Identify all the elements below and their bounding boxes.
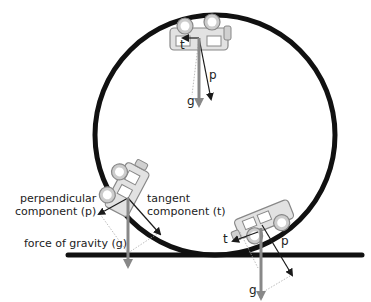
label-right-g: g [249,284,257,297]
label-top-g: g [187,95,195,108]
loop-track [95,15,335,255]
label-perpendicular-component: perpendicular component (p) [15,192,96,218]
label-right-t: t [223,233,228,246]
label-right-p: p [281,235,289,248]
label-top-p: p [209,69,217,82]
label-force-of-gravity: force of gravity (g) [24,237,127,250]
label-top-t: t [180,39,185,52]
loop-force-diagram: t p g perpendicular component (p) tangen… [0,0,371,302]
label-tangent-component: tangent component (t) [147,192,226,218]
diagram-canvas [0,0,371,302]
